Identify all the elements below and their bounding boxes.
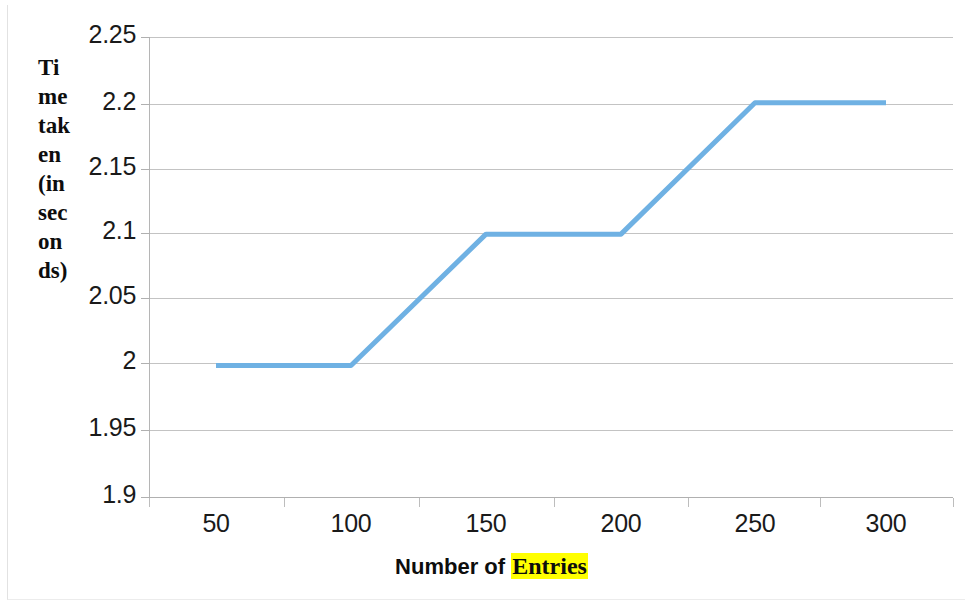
x-axis-tick-label: 200 — [551, 509, 691, 538]
x-axis-tick-mark — [419, 498, 420, 507]
x-axis-title-plain: Number of — [395, 554, 511, 579]
x-axis-tick-label: 150 — [416, 509, 556, 538]
y-axis-title-line: me — [38, 82, 86, 111]
y-axis-tick-mark — [141, 104, 150, 105]
x-axis-tick-label: 50 — [146, 509, 286, 538]
y-axis-title-line: tak — [38, 111, 86, 140]
y-axis-title-line: Ti — [38, 53, 86, 82]
gridline — [149, 37, 953, 38]
y-axis-title-line: sec — [38, 198, 86, 227]
y-axis-tick-label: 2 — [16, 346, 136, 375]
y-axis-tick-label: 1.95 — [16, 413, 136, 442]
plot-area — [149, 37, 953, 497]
y-axis-tick-label: 1.9 — [16, 480, 136, 509]
y-axis-title: Timetaken(inseconds) — [38, 53, 86, 285]
gridline — [149, 363, 953, 364]
y-axis-tick-label: 2.25 — [16, 20, 136, 49]
x-axis-tick-mark — [149, 498, 150, 507]
x-axis-tick-mark — [688, 498, 689, 507]
y-axis-tick-mark — [141, 298, 150, 299]
x-axis-title: Number of Entries — [8, 553, 967, 580]
y-axis-tick-mark — [141, 363, 150, 364]
x-axis-tick-mark — [820, 498, 821, 507]
gridline — [149, 104, 953, 105]
x-axis-tick-mark — [554, 498, 555, 507]
x-axis-tick-mark — [953, 498, 954, 507]
y-axis-tick-mark — [141, 233, 150, 234]
y-axis-tick-label: 2.05 — [16, 281, 136, 310]
y-axis-tick-mark — [141, 169, 150, 170]
x-axis-tick-label: 300 — [816, 509, 956, 538]
gridline — [149, 430, 953, 431]
x-axis-title-highlighted: Entries — [511, 553, 588, 579]
x-axis-tick-mark — [284, 498, 285, 507]
y-axis-tick-mark — [141, 37, 150, 38]
y-axis-title-line: en — [38, 140, 86, 169]
chart-frame: 2.252.22.152.12.0521.951.9 5010015020025… — [7, 5, 965, 600]
gridline — [149, 233, 953, 234]
category-axis-line — [149, 497, 953, 498]
x-axis-tick-label: 100 — [281, 509, 421, 538]
y-axis-tick-mark — [141, 430, 150, 431]
y-axis-title-line: (in — [38, 169, 86, 198]
y-axis-title-line: ds) — [38, 256, 86, 285]
x-axis-tick-label: 250 — [685, 509, 825, 538]
gridline — [149, 169, 953, 170]
gridline — [149, 298, 953, 299]
y-axis-title-line: on — [38, 227, 86, 256]
